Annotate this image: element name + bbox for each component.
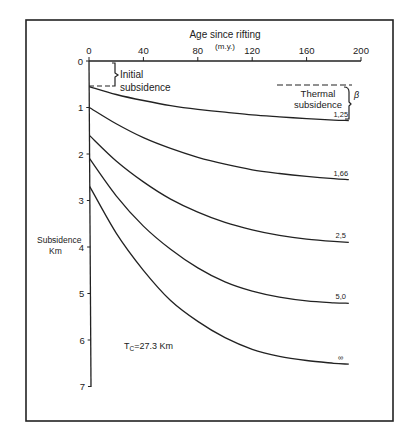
beta-symbol: β [353,90,359,100]
curve-label-beta-2.5: 2,5 [336,231,346,240]
curve-beta-infinity [90,187,349,365]
initial-subsidence-label-1: Initial [120,69,143,80]
initial-subsidence-brace [112,63,118,86]
thermal-subsidence-label-2: subsidence [294,99,342,110]
y-axis-line [89,61,91,387]
curve-label-beta-1.66: 1,66 [333,169,348,178]
x-tick-label: 40 [138,45,149,56]
y-tick-label: 2 [78,149,83,160]
curve-label-beta-1.25: 1,25 [333,110,348,119]
thermal-subsidence-label-1: Thermal [301,88,336,99]
x-axis-units: (m.y.) [215,42,235,51]
subsidence-curves [89,87,349,365]
y-tick-label: 6 [79,335,84,346]
x-tick-label: 0 [86,45,91,56]
y-axis-title: Subsidence [37,235,82,245]
y-tick-label: 3 [79,195,84,206]
y-tick-label: 1 [78,102,83,113]
tc-value: =27.3 Km [134,341,173,351]
initial-subsidence-label-2: subsidence [120,82,171,93]
curve-label-beta-5.0: 5,0 [336,292,346,301]
x-tick-label: 80 [193,45,204,56]
y-tick-label: 5 [79,288,84,299]
crust-thickness-label: TC=27.3 Km [124,341,173,352]
y-axis-units: Km [49,246,62,256]
curve-beta-5.0 [90,159,349,304]
y-tick-label: 7 [80,381,85,392]
subsidence-chart: Age since rifting (m.y.) 04080120160200 … [0,0,411,438]
curve-beta-2.5 [89,135,348,242]
x-tick-label: 200 [353,45,369,56]
x-tick-label: 160 [299,45,315,56]
x-tick-label: 120 [244,45,260,56]
curve-labels: 1,251,662,55,0∞ [333,110,348,363]
y-tick-label: 0 [78,56,83,67]
x-axis-title: Age since rifting [189,29,260,40]
curve-label-beta-infinity: ∞ [338,353,343,362]
